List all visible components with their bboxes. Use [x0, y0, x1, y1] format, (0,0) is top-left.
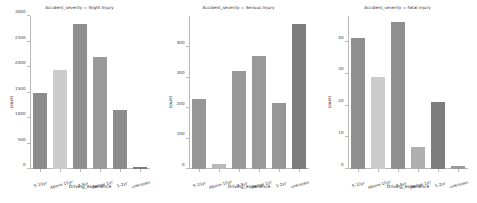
- bar[interactable]: [53, 70, 66, 169]
- y-tick-label: 1500: [15, 85, 25, 90]
- bar-slot: [388, 16, 408, 169]
- bar[interactable]: [113, 110, 126, 169]
- bar-slot: [269, 16, 289, 169]
- bar-slot: [30, 16, 50, 169]
- y-tick-label: 3000: [15, 9, 25, 14]
- y-tick-label: 100: [177, 131, 185, 136]
- bar[interactable]: [93, 57, 106, 169]
- bar-series: [30, 16, 150, 169]
- bar[interactable]: [272, 103, 285, 169]
- facet-grid-figure: Accident_severity = Slight Injurycount05…: [0, 0, 477, 203]
- bar-slot: [70, 16, 90, 169]
- y-tick-label: 400: [177, 39, 185, 44]
- x-axis-label: Driving_experience: [348, 184, 468, 189]
- y-tick-label: 1000: [15, 111, 25, 116]
- bar-slot: [189, 16, 209, 169]
- y-axis-label: count: [327, 95, 332, 107]
- bar[interactable]: [192, 99, 205, 169]
- x-axis-label: Driving_experience: [189, 184, 309, 189]
- bar-series: [189, 16, 309, 169]
- y-tick-label: 2500: [15, 34, 25, 39]
- y-tick-label: 40: [338, 34, 343, 39]
- y-tick-label: 0: [23, 162, 26, 167]
- bar[interactable]: [33, 93, 46, 170]
- bar[interactable]: [292, 24, 305, 169]
- y-tick-label: 0: [341, 162, 344, 167]
- y-tick-label: 300: [177, 70, 185, 75]
- bar[interactable]: [391, 22, 404, 169]
- bar[interactable]: [232, 71, 245, 169]
- facet-panel-2: Accident_severity = Fatal injurycount010…: [318, 0, 477, 203]
- y-tick-label: 0: [182, 162, 185, 167]
- y-axis-label: count: [9, 95, 14, 107]
- bar-slot: [110, 16, 130, 169]
- bar-slot: [90, 16, 110, 169]
- bar-slot: [428, 16, 448, 169]
- bar-slot: [50, 16, 70, 169]
- y-tick-label: 10: [338, 130, 343, 135]
- facet-panel-1: Accident_severity = Serious Injurycount0…: [159, 0, 318, 203]
- y-tick-label: 2000: [15, 60, 25, 65]
- facet-panel-0: Accident_severity = Slight Injurycount05…: [0, 0, 159, 203]
- bar-slot: [408, 16, 428, 169]
- bar-slot: [229, 16, 249, 169]
- plot-area: 010203040: [348, 16, 468, 169]
- bar-slot: [348, 16, 368, 169]
- bar-slot: [448, 16, 468, 169]
- bar-slot: [130, 16, 150, 169]
- bar-slot: [209, 16, 229, 169]
- bar[interactable]: [351, 38, 364, 169]
- y-tick-label: 30: [338, 66, 343, 71]
- facet-title: Accident_severity = Fatal injury: [318, 5, 477, 10]
- bar-series: [348, 16, 468, 169]
- x-axis-label: Driving_experience: [30, 184, 150, 189]
- plot-area: 050010001500200025003000: [30, 16, 150, 169]
- y-tick-label: 200: [177, 100, 185, 105]
- y-tick-label: 500: [18, 136, 26, 141]
- y-axis-label: count: [168, 95, 173, 107]
- plot-area: 0100200300400: [189, 16, 309, 169]
- bar[interactable]: [431, 102, 444, 169]
- bar-slot: [249, 16, 269, 169]
- bar[interactable]: [73, 24, 86, 169]
- facet-title: Accident_severity = Serious Injury: [159, 5, 318, 10]
- bar-slot: [289, 16, 309, 169]
- bar-slot: [368, 16, 388, 169]
- bar[interactable]: [371, 77, 384, 169]
- y-tick-label: 20: [338, 98, 343, 103]
- bar[interactable]: [252, 56, 265, 169]
- bar[interactable]: [411, 147, 424, 169]
